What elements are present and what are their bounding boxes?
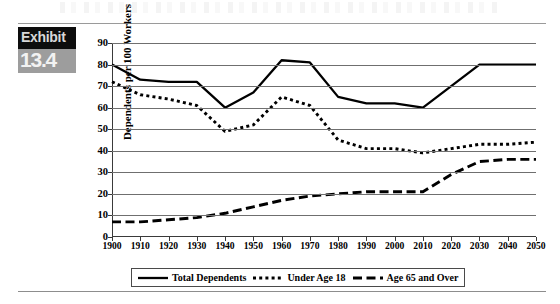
gridline-60 (112, 108, 536, 109)
legend-swatch-dashed (353, 274, 383, 282)
chart-legend: Total DependentsUnder Age 18Age 65 and O… (131, 268, 465, 287)
gridline-90 (112, 43, 536, 44)
legend-label: Under Age 18 (287, 272, 345, 283)
chart: Dependents per 100 Workers 0102030405060… (60, 30, 542, 288)
gridline-30 (112, 172, 536, 173)
top-divider-rule (18, 23, 546, 24)
y-tick-label-50: 50 (82, 124, 108, 134)
gridline-40 (112, 151, 536, 152)
y-tick-label-10: 10 (82, 210, 108, 220)
series-line-total-dependents (112, 60, 536, 107)
series-line-age-65-and-over (112, 159, 536, 222)
legend-label: Total Dependents (172, 272, 246, 283)
legend-entry-age-65-and-over[interactable]: Age 65 and Over (353, 272, 459, 283)
y-tick-label-40: 40 (82, 146, 108, 156)
series-layer (112, 43, 536, 237)
y-tick-mark-70 (108, 86, 112, 87)
y-axis-tick-labels: 0102030405060708090 (82, 30, 108, 230)
y-tick-label-70: 70 (82, 81, 108, 91)
y-tick-mark-40 (108, 151, 112, 152)
series-line-under-age-18 (112, 82, 536, 153)
y-tick-label-60: 60 (82, 103, 108, 113)
legend-swatch-solid (138, 274, 168, 282)
gridline-10 (112, 215, 536, 216)
legend-label: Age 65 and Over (387, 272, 459, 283)
y-tick-mark-50 (108, 129, 112, 130)
gridline-20 (112, 194, 536, 195)
y-tick-mark-10 (108, 215, 112, 216)
y-tick-label-30: 30 (82, 167, 108, 177)
legend-entry-total-dependents[interactable]: Total Dependents (138, 272, 246, 283)
y-tick-label-20: 20 (82, 189, 108, 199)
y-tick-mark-90 (108, 43, 112, 44)
legend-swatch-dotted (253, 274, 283, 282)
legend-entry-under-age-18[interactable]: Under Age 18 (253, 272, 345, 283)
x-axis-tick-labels: 1900191019201930194019501960197019801990… (112, 240, 536, 254)
x-tick-label-2050: 2050 (519, 240, 553, 251)
gridline-80 (112, 65, 536, 66)
y-tick-label-90: 90 (82, 38, 108, 48)
bottom-divider-rule (18, 291, 546, 292)
y-tick-mark-20 (108, 194, 112, 195)
y-tick-mark-60 (108, 108, 112, 109)
y-tick-label-80: 80 (82, 60, 108, 70)
gridline-50 (112, 129, 536, 130)
y-tick-mark-30 (108, 172, 112, 173)
y-tick-mark-80 (108, 65, 112, 66)
gridline-70 (112, 86, 536, 87)
plot-area (112, 43, 536, 237)
